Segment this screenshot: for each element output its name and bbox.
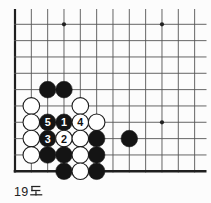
- stone-black: [121, 130, 138, 147]
- stone-white: [72, 98, 89, 115]
- go-diagram-page: 5143219: [0, 0, 211, 203]
- star-point: [62, 22, 66, 26]
- stone-white: [88, 114, 105, 131]
- star-point: [160, 120, 164, 124]
- hangul-do-glyph: [31, 187, 42, 195]
- stone-black: [88, 147, 105, 164]
- stone-white: [72, 130, 89, 147]
- stone-black: [88, 130, 105, 147]
- caption-text: 9: [21, 185, 28, 199]
- stone-number: 2: [61, 133, 67, 145]
- stone-number: 4: [77, 116, 83, 128]
- stone-white: [72, 147, 89, 164]
- stone-white: [23, 147, 40, 164]
- stone-white: [23, 98, 40, 115]
- stone-black: [56, 147, 73, 164]
- stone-number: 5: [45, 116, 51, 128]
- stone-black: [39, 81, 56, 98]
- stone-black: [39, 147, 56, 164]
- star-point: [160, 22, 164, 26]
- stone-number: 3: [45, 133, 51, 145]
- stone-black: [56, 163, 73, 180]
- diagram-caption: 19: [14, 185, 42, 199]
- caption-text: 1: [14, 185, 21, 199]
- stone-white: [72, 163, 89, 180]
- stone-black: [88, 163, 105, 180]
- stone-white: [23, 114, 40, 131]
- stone-white: [23, 130, 40, 147]
- stone-black: [56, 81, 73, 98]
- stone-number: 1: [61, 116, 67, 128]
- go-board: 5143219: [0, 0, 211, 203]
